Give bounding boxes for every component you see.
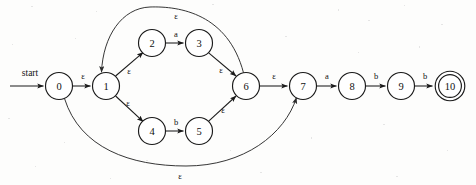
state-label-8: 8	[349, 81, 354, 92]
state-node-4[interactable]: 4	[139, 118, 166, 145]
edge-label-5-6: ε	[221, 105, 225, 115]
state-node-0[interactable]: 0	[46, 73, 73, 100]
state-label-7: 7	[300, 81, 305, 92]
state-label-4: 4	[149, 126, 155, 137]
transition-7-8: a	[317, 71, 337, 86]
edge-label-6-1: ε	[174, 11, 178, 21]
transition-0-1: ε	[73, 71, 91, 86]
state-node-5[interactable]: 5	[186, 118, 213, 145]
edge-label-1-4: ε	[126, 98, 130, 108]
transition-8-9: b	[366, 71, 386, 86]
transition-6-7: ε	[260, 71, 288, 86]
edge-label-4-5: b	[174, 117, 178, 127]
state-node-9[interactable]: 9	[388, 73, 415, 100]
state-label-1: 1	[103, 81, 108, 92]
transition-4-5: b	[166, 117, 184, 131]
state-label-3: 3	[196, 38, 201, 49]
state-label-9: 9	[398, 81, 403, 92]
state-node-8[interactable]: 8	[339, 73, 366, 100]
state-node-2[interactable]: 2	[139, 30, 166, 57]
nfa-diagram-canvas: start ε ε a ε ε b	[0, 0, 476, 185]
automaton-graph: start ε ε a ε ε b	[0, 0, 476, 185]
edge-label-0-1: ε	[81, 71, 85, 81]
state-label-6: 6	[243, 81, 248, 92]
edge-label-8-9: b	[374, 71, 378, 81]
edge-label-6-7: ε	[272, 71, 276, 81]
state-node-6[interactable]: 6	[233, 73, 260, 100]
edge-arc-6-1	[102, 7, 244, 73]
transition-2-3: a	[166, 29, 184, 43]
state-node-10[interactable]: 10	[435, 71, 465, 101]
edge-label-1-2: ε	[127, 66, 131, 76]
state-node-3[interactable]: 3	[186, 30, 213, 57]
edge-label-9-10: b	[423, 71, 427, 81]
transition-9-10: b	[415, 71, 433, 86]
transition-3-6: ε	[209, 53, 236, 76]
state-node-7[interactable]: 7	[290, 73, 317, 100]
transition-1-4: ε	[116, 96, 144, 122]
edge-label-2-3: a	[174, 29, 178, 39]
transition-6-1: ε	[102, 7, 244, 73]
state-label-2: 2	[149, 38, 154, 49]
edge-arc-0-7	[65, 98, 297, 167]
start-arrow-group: start	[10, 68, 44, 86]
state-label-0: 0	[56, 81, 61, 92]
transition-5-6: ε	[209, 96, 236, 121]
state-node-1[interactable]: 1	[93, 73, 120, 100]
state-label-10: 10	[445, 81, 456, 92]
edge-label-3-6: ε	[219, 65, 223, 75]
transition-0-7: ε	[65, 98, 297, 182]
transition-1-2: ε	[116, 52, 144, 76]
start-label: start	[22, 68, 39, 78]
state-label-5: 5	[196, 126, 201, 137]
edge-label-0-7: ε	[178, 171, 182, 181]
edge-label-7-8: a	[325, 71, 329, 81]
